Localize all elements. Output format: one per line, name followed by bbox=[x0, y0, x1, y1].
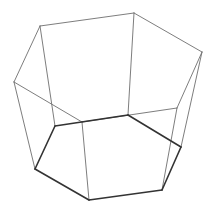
bottom-face-edge bbox=[162, 147, 181, 190]
top-face-edge bbox=[134, 13, 202, 52]
top-face-edge bbox=[14, 26, 40, 82]
lateral-edge bbox=[162, 108, 177, 190]
bottom-face-edges bbox=[35, 115, 181, 200]
hexagonal-frustum-wireframe bbox=[0, 0, 215, 211]
frustum-diagram bbox=[0, 0, 215, 211]
bottom-face-edge bbox=[35, 169, 89, 200]
top-face-edge bbox=[40, 13, 134, 26]
lateral-edge bbox=[181, 52, 202, 147]
thin-edges bbox=[14, 13, 202, 200]
lateral-edge bbox=[82, 122, 89, 200]
bottom-face-edge bbox=[35, 126, 55, 169]
top-face-edge bbox=[14, 82, 82, 122]
lateral-edge bbox=[14, 82, 35, 169]
lateral-edge bbox=[40, 26, 55, 126]
top-face-edge bbox=[177, 52, 202, 108]
bottom-face-edge bbox=[89, 190, 162, 200]
bottom-face-edge bbox=[55, 115, 128, 126]
lateral-edge bbox=[128, 13, 134, 115]
